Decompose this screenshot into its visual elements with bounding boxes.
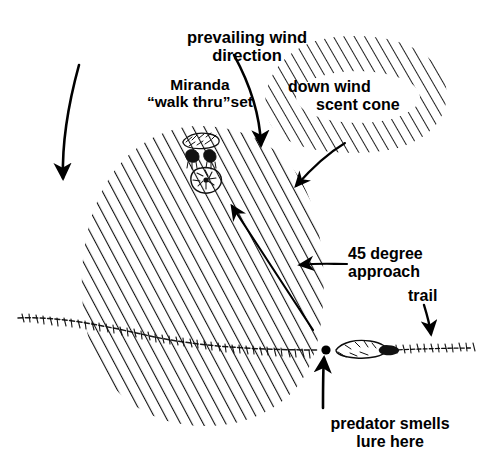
diagram-canvas-root: prevailing wind direction Miranda “walk … bbox=[0, 0, 494, 475]
label-predator-smells-lure-here: predator smells lure here bbox=[330, 415, 449, 451]
diagram-svg bbox=[0, 0, 494, 475]
label-down-wind-scent-cone: down windscent cone bbox=[288, 78, 400, 114]
approach-line-1: 45 degree bbox=[348, 245, 423, 262]
predator-line-1: predator smells bbox=[330, 415, 449, 432]
approach-line-2: approach bbox=[348, 263, 420, 280]
label-trail: trail bbox=[408, 287, 437, 305]
label-miranda-walk-thru-set: Miranda “walk thru”set bbox=[147, 76, 253, 111]
predator-smells-lure-point bbox=[321, 345, 330, 354]
trail-callout-arrow bbox=[424, 305, 431, 334]
label-45-degree-approach: 45 degree approach bbox=[348, 245, 423, 281]
lure-sketch bbox=[336, 340, 399, 358]
45-degree-approach-callout-arrow bbox=[300, 264, 347, 265]
prevailing-wind-line-1: prevailing wind bbox=[187, 28, 307, 46]
predator-lure-callout-arrow bbox=[323, 358, 324, 408]
down-wind-line-1: down wind bbox=[288, 78, 371, 95]
prevailing-wind-arrow-left bbox=[63, 65, 79, 178]
down-wind-line-2: scent cone bbox=[288, 96, 400, 114]
prevailing-wind-line-2: direction bbox=[212, 46, 282, 64]
miranda-line-1: Miranda bbox=[170, 76, 229, 93]
miranda-line-2: “walk thru”set bbox=[147, 93, 253, 110]
predator-line-2: lure here bbox=[356, 433, 424, 450]
label-prevailing-wind-direction: prevailing wind direction bbox=[187, 28, 307, 65]
